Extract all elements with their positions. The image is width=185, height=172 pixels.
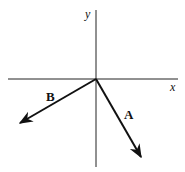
vector-diagram	[0, 0, 185, 172]
y-axis-label: y	[85, 8, 90, 20]
vector-a	[96, 79, 141, 157]
vector-a-label: A	[124, 108, 133, 121]
vector-b	[20, 79, 96, 123]
vector-b-label: B	[46, 90, 55, 103]
x-axis-label: x	[170, 81, 175, 93]
